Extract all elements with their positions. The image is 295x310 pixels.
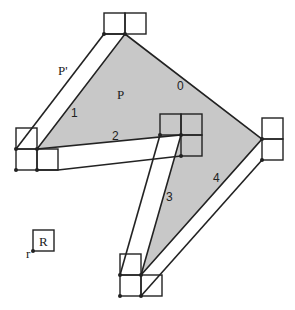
diagram-canvas: P' P R r 0 1 2 3 4 bbox=[0, 0, 295, 310]
label-r-robot: R bbox=[39, 234, 48, 249]
edge-label-2: 2 bbox=[112, 129, 119, 143]
label-r-point: r bbox=[26, 246, 31, 261]
edge-label-1: 1 bbox=[71, 106, 78, 120]
edge-label-0: 0 bbox=[177, 79, 184, 93]
edge-label-3: 3 bbox=[166, 190, 173, 204]
label-p-prime: P' bbox=[58, 63, 68, 78]
edge-label-4: 4 bbox=[213, 171, 220, 185]
label-p: P bbox=[117, 87, 124, 102]
configuration-space-diagram: P' P R r 0 1 2 3 4 bbox=[0, 0, 295, 310]
polygon-p bbox=[37, 34, 262, 275]
